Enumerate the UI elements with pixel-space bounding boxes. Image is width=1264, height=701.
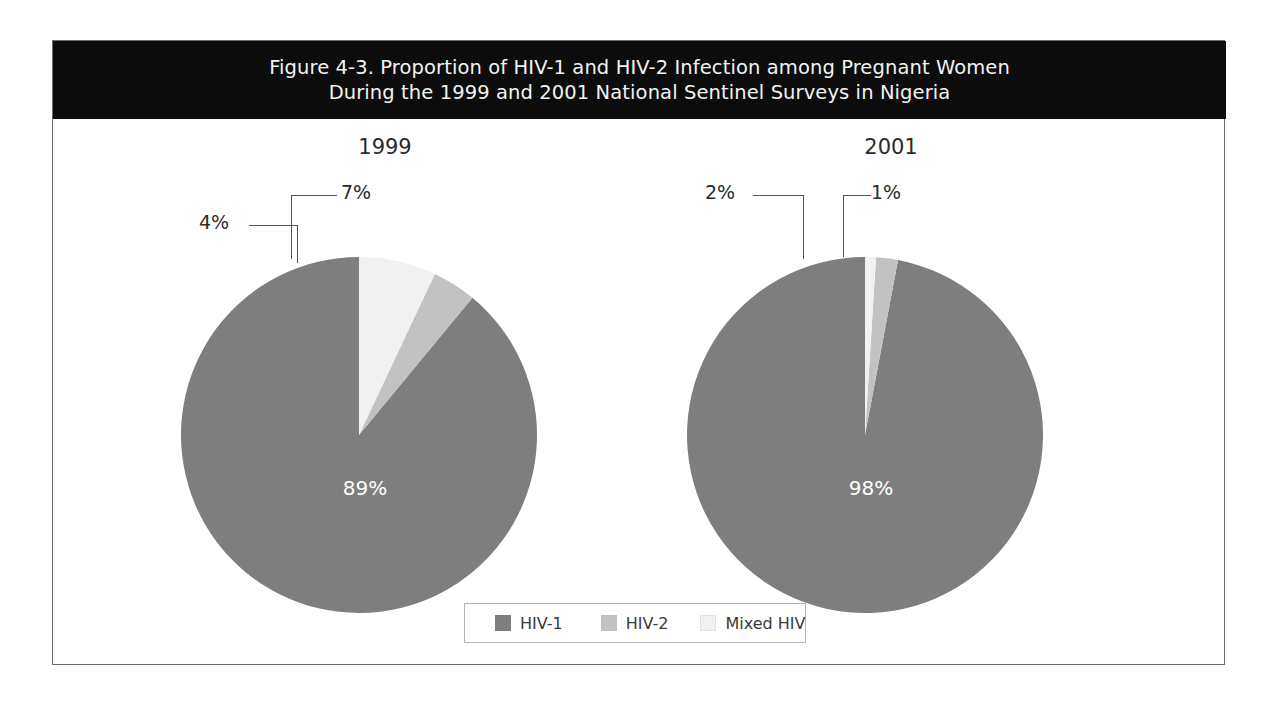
callout-leader-2001-hiv2-horizontal <box>753 195 803 196</box>
legend-label-hiv-1: HIV-1 <box>520 614 563 633</box>
pie-1999-slice-hiv-1[interactable] <box>181 257 537 613</box>
callout-leader-2001-mixed-horizontal <box>843 195 871 196</box>
plot-area: 1999 2001 89% 98% 4% 7% 2% 1% HIV-1 <box>53 119 1226 664</box>
callout-leader-1999-hiv2-vertical <box>297 225 298 263</box>
legend-entry-hiv-1: HIV-1 <box>495 604 563 642</box>
legend: HIV-1 HIV-2 Mixed HIV <box>464 603 806 643</box>
panel-title-2001: 2001 <box>811 135 971 159</box>
callout-label-1999-mixed: 7% <box>341 181 371 203</box>
callout-label-2001-mixed: 1% <box>871 181 901 203</box>
callout-leader-1999-mixed-horizontal <box>291 195 337 196</box>
pie-2001-center-label: 98% <box>849 476 893 500</box>
legend-label-mixed-hiv: Mixed HIV <box>725 614 805 633</box>
figure-title-band: Figure 4-3. Proportion of HIV-1 and HIV-… <box>53 41 1226 119</box>
legend-swatch-hiv-1 <box>495 615 511 631</box>
pie-1999-center-label: 89% <box>343 476 387 500</box>
legend-swatch-mixed-hiv <box>700 615 716 631</box>
callout-label-2001-hiv2: 2% <box>705 181 735 203</box>
callout-leader-2001-hiv2-vertical <box>803 195 804 259</box>
pie-svg-1999: 89% <box>173 249 545 621</box>
figure-title: Figure 4-3. Proportion of HIV-1 and HIV-… <box>269 55 1010 105</box>
legend-label-hiv-2: HIV-2 <box>626 614 669 633</box>
panel-title-1999: 1999 <box>305 135 465 159</box>
callout-leader-1999-mixed-vertical <box>291 195 292 259</box>
legend-entry-hiv-2: HIV-2 <box>601 604 669 642</box>
legend-swatch-hiv-2 <box>601 615 617 631</box>
callout-label-1999-hiv2: 4% <box>199 211 229 233</box>
pie-chart-2001: 98% <box>679 249 1051 621</box>
pie-svg-2001: 98% <box>679 249 1051 621</box>
pie-chart-1999: 89% <box>173 249 545 621</box>
callout-leader-2001-mixed-vertical <box>843 195 844 257</box>
callout-leader-1999-hiv2-horizontal <box>249 225 297 226</box>
figure-container: Figure 4-3. Proportion of HIV-1 and HIV-… <box>52 40 1225 665</box>
legend-entry-mixed-hiv: Mixed HIV <box>700 604 805 642</box>
